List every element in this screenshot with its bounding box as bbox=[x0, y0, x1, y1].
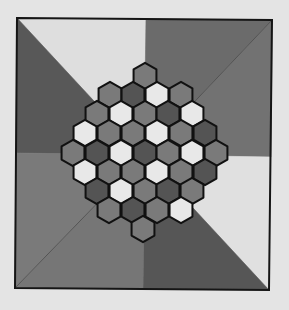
hex-cell-r7-c0[interactable] bbox=[98, 197, 121, 223]
hex-cell-r7-c3[interactable] bbox=[170, 197, 193, 223]
hex-cell-r8-c0[interactable] bbox=[132, 216, 155, 242]
game-board bbox=[0, 0, 289, 310]
